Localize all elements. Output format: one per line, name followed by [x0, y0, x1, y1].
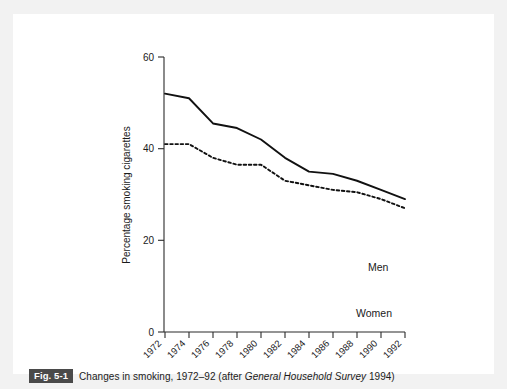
figure-page: 0 20 40 60 Percentage smoking cigarettes	[0, 0, 507, 389]
series-label-men: Men	[368, 261, 389, 273]
x-tick-label-1986: 1986	[309, 338, 332, 358]
figure-number-tag: Fig. 5-1	[29, 369, 73, 383]
caption-source-title: General Household Survey	[245, 371, 366, 382]
figure-caption: Fig. 5-1 Changes in smoking, 1972–92 (af…	[29, 366, 482, 386]
y-tick-label-0: 0	[148, 327, 154, 338]
y-tick-label-20: 20	[143, 235, 155, 246]
x-tick-label-1976: 1976	[189, 338, 212, 358]
y-axis-title: Percentage smoking cigarettes	[121, 126, 132, 263]
x-axis-ticks	[165, 332, 405, 338]
series-line-men	[165, 94, 405, 199]
x-tick-label-1982: 1982	[261, 338, 284, 358]
x-axis-tick-labels: 1972 1974 1976 1978 1980 1982 1984 1986 …	[141, 338, 404, 358]
y-tick-label-40: 40	[143, 143, 155, 154]
y-axis-tick-labels: 0 20 40 60	[143, 52, 155, 338]
x-tick-label-1978: 1978	[213, 338, 236, 358]
x-tick-label-1988: 1988	[333, 338, 356, 358]
y-axis-ticks	[158, 57, 164, 332]
line-chart: 0 20 40 60 Percentage smoking cigarettes	[34, 26, 474, 358]
caption-part-before: Changes in smoking, 1972–92 (after	[79, 371, 245, 382]
chart-plot-area: 0 20 40 60 Percentage smoking cigarettes	[34, 26, 474, 358]
x-tick-label-1990: 1990	[357, 338, 380, 358]
x-tick-label-1980: 1980	[237, 338, 260, 358]
x-tick-label-1984: 1984	[285, 338, 308, 358]
x-tick-label-1992: 1992	[381, 338, 404, 358]
series-line-women	[165, 144, 405, 208]
caption-part-after: 1994)	[366, 371, 395, 382]
figure-card: 0 20 40 60 Percentage smoking cigarettes	[13, 14, 494, 374]
figure-caption-text: Changes in smoking, 1972–92 (after Gener…	[79, 371, 395, 382]
y-tick-label-60: 60	[143, 52, 155, 63]
x-tick-label-1972: 1972	[141, 338, 164, 358]
series-label-women: Women	[356, 307, 392, 319]
x-tick-label-1974: 1974	[165, 338, 188, 358]
